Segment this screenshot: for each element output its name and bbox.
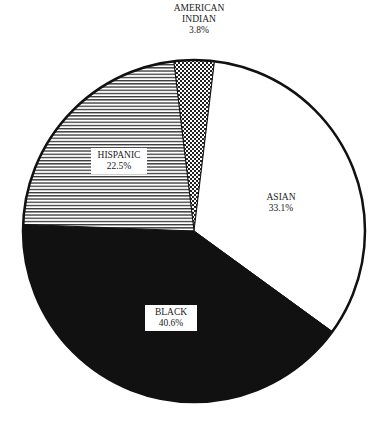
label-american-indian-pct: 3.8% (159, 25, 239, 36)
label-black-name: BLACK (149, 307, 193, 318)
pie-chart (0, 0, 383, 429)
pie-slice-hispanic (23, 61, 194, 231)
label-black-pct: 40.6% (149, 318, 193, 329)
label-asian: ASIAN 33.1% (256, 192, 306, 214)
label-american-indian-line2: INDIAN (159, 14, 239, 25)
label-black: BLACK 40.6% (145, 305, 197, 331)
label-american-indian-line1: AMERICAN (159, 3, 239, 14)
label-american-indian: AMERICAN INDIAN 3.8% (159, 3, 239, 36)
label-hispanic-name: HISPANIC (95, 150, 143, 161)
label-asian-name: ASIAN (256, 192, 306, 203)
label-hispanic: HISPANIC 22.5% (91, 148, 147, 174)
label-hispanic-pct: 22.5% (95, 161, 143, 172)
label-asian-pct: 33.1% (256, 203, 306, 214)
